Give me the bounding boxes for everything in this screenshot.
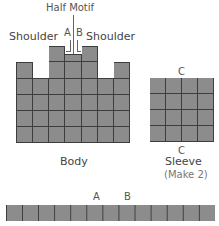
sleeve-piece: [150, 78, 214, 142]
body-cell: [49, 111, 65, 127]
body-cell: [33, 127, 49, 143]
body-cell: [65, 54, 82, 62]
bracket-a: [70, 40, 71, 52]
body-cell: [98, 78, 114, 95]
label-b-strip: B: [124, 192, 131, 202]
body-cell: [16, 95, 33, 111]
body-cell: [16, 62, 33, 79]
body-cell: [114, 95, 130, 111]
body-cell: [65, 95, 82, 111]
body-cell: [82, 127, 98, 143]
body-cell: [114, 127, 130, 143]
label-a-strip: A: [93, 192, 100, 202]
body-cell: [82, 79, 98, 95]
body-cell: [33, 95, 49, 111]
label-b-top: B: [76, 28, 83, 38]
sleeve-label: Sleeve: [165, 156, 202, 167]
sleeve-note: (Make 2): [164, 170, 208, 180]
body-cell: [114, 79, 130, 95]
body-cell: [65, 127, 82, 143]
body-cell: [49, 62, 65, 79]
body-cell: [65, 111, 82, 127]
body-cell: [114, 62, 130, 79]
body-cell: [98, 95, 114, 111]
body-cell: [16, 127, 33, 143]
body-cell: [49, 79, 65, 95]
center-line: [73, 15, 74, 55]
body-cell: [82, 62, 98, 79]
body-cell: [82, 95, 98, 111]
shoulder-right-label: Shoulder: [86, 31, 135, 42]
body-cell: [65, 79, 82, 95]
body-cell: [16, 111, 33, 127]
strip-piece: [6, 205, 215, 221]
label-c-sleeve-top: C: [178, 67, 185, 77]
body-cell: [49, 46, 65, 62]
bracket-a-foot: [66, 51, 70, 52]
half-motif-label: Half Motif: [46, 3, 94, 13]
body-cell: [49, 127, 65, 143]
body-cell: [65, 62, 82, 79]
shoulder-left-label: Shoulder: [9, 31, 58, 42]
body-cell: [82, 46, 98, 62]
body-label: Body: [60, 156, 88, 167]
body-cell: [16, 79, 33, 95]
body-cell: [114, 111, 130, 127]
body-cell: [33, 111, 49, 127]
bracket-b-foot: [77, 51, 81, 52]
body-cell: [98, 111, 114, 127]
body-cell: [49, 95, 65, 111]
body-cell: [98, 127, 114, 143]
label-a-top: A: [64, 28, 71, 38]
body-cell: [82, 111, 98, 127]
body-cell: [33, 78, 49, 95]
